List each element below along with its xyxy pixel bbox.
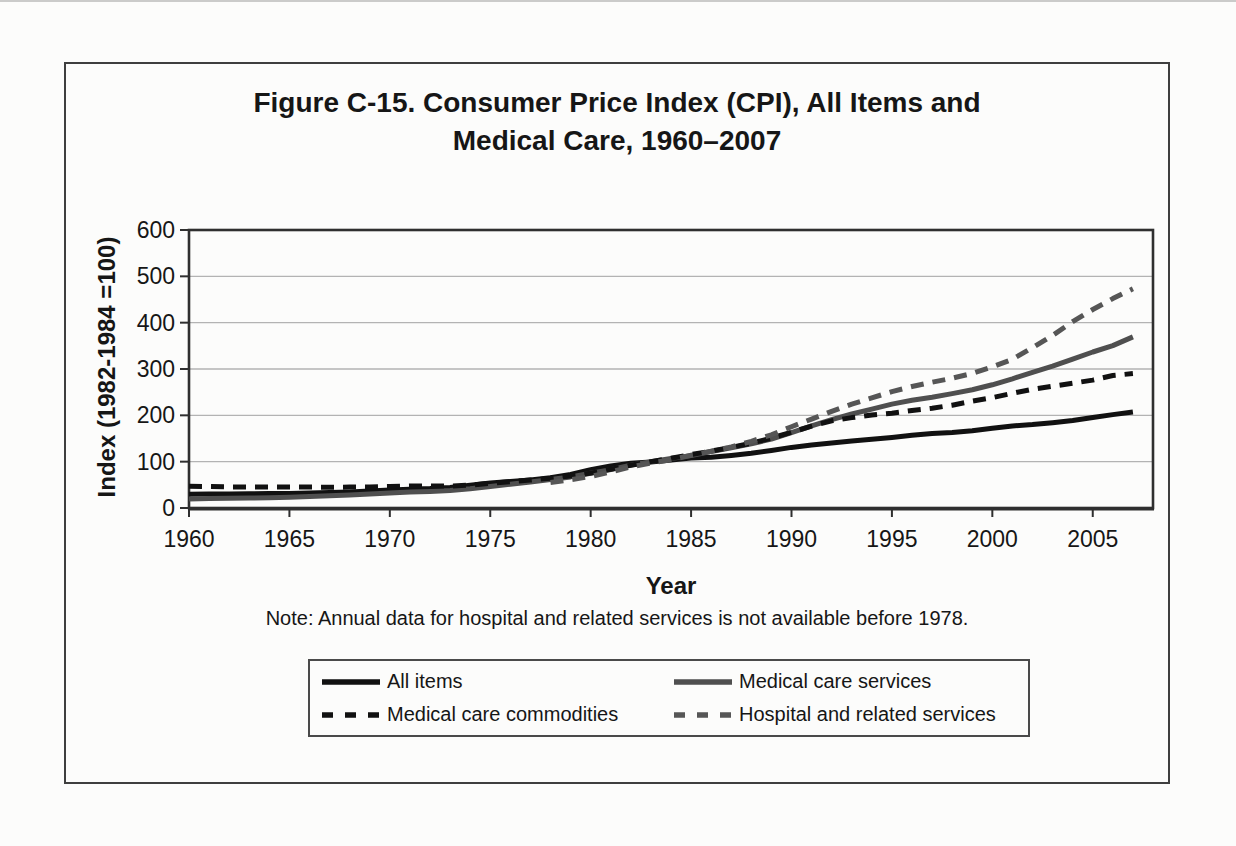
dashed-gray-line-swatch-icon: [672, 709, 734, 721]
legend-item-medical-care-services: Medical care services: [672, 670, 1028, 693]
legend-item-medical-care-commodities: Medical care commodities: [320, 703, 672, 726]
dashed-black-line-swatch-icon: [320, 709, 382, 721]
legend-box: All items Medical care services Medical …: [308, 659, 1030, 737]
legend-label-medical-care-commodities: Medical care commodities: [387, 703, 618, 726]
legend-label-all-items: All items: [387, 670, 463, 693]
x-tick-label-1960: 1960: [163, 526, 214, 552]
x-tick-label-1980: 1980: [565, 526, 616, 552]
y-tick-label-400: 400: [137, 310, 175, 336]
series-line-medical-care-services: [189, 337, 1133, 499]
series-line-all-items: [189, 412, 1133, 494]
y-tick-label-0: 0: [162, 495, 175, 521]
footnote: Note: Annual data for hospital and relat…: [64, 607, 1170, 630]
legend-item-hospital-and-related-services: Hospital and related services: [672, 703, 1028, 726]
x-tick-label-1965: 1965: [264, 526, 315, 552]
x-tick-label-1975: 1975: [465, 526, 516, 552]
y-tick-label-500: 500: [137, 263, 175, 289]
y-tick-label-600: 600: [137, 217, 175, 243]
legend-label-hospital-and-related-services: Hospital and related services: [739, 703, 996, 726]
x-tick-label-1970: 1970: [364, 526, 415, 552]
x-tick-label-1990: 1990: [766, 526, 817, 552]
x-axis-title: Year: [646, 572, 697, 600]
x-tick-label-2000: 2000: [967, 526, 1018, 552]
solid-gray-line-swatch-icon: [672, 676, 734, 688]
legend-item-all-items: All items: [320, 670, 672, 693]
y-tick-label-300: 300: [137, 356, 175, 382]
x-tick-label-1985: 1985: [665, 526, 716, 552]
y-tick-label-200: 200: [137, 402, 175, 428]
x-tick-label-2005: 2005: [1067, 526, 1118, 552]
y-tick-label-100: 100: [137, 449, 175, 475]
y-axis-title: Index (1982-1984 =100): [93, 237, 121, 498]
legend-label-medical-care-services: Medical care services: [739, 670, 931, 693]
solid-black-line-swatch-icon: [320, 676, 382, 688]
x-tick-label-1995: 1995: [866, 526, 917, 552]
scanned-figure-page: Figure C-15. Consumer Price Index (CPI),…: [0, 0, 1236, 846]
